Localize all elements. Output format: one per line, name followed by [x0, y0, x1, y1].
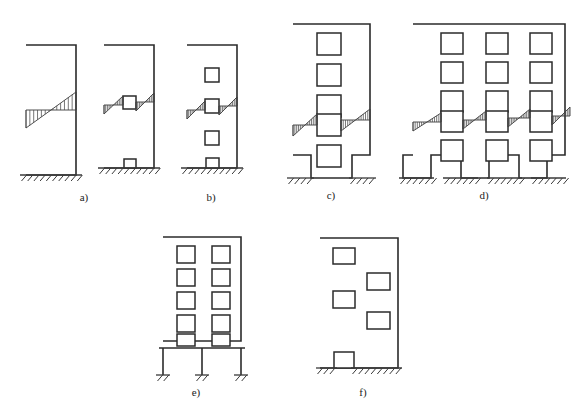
- opening-window-r3c3: [530, 91, 552, 112]
- shear-diagram-d-3: [552, 107, 570, 125]
- opening-window-r5: [212, 334, 230, 346]
- panel-f: [316, 238, 402, 374]
- ground-a-tick: [149, 168, 154, 174]
- ground-b-tick: [238, 168, 243, 174]
- shear-diagram-d-1: [463, 111, 486, 129]
- ground-a-tick: [131, 168, 136, 174]
- opening-window-r5c1: [441, 140, 463, 161]
- support-column-left: [156, 375, 170, 381]
- opening-window-r4c1: [441, 111, 463, 132]
- ground-f-1-tick: [353, 368, 358, 374]
- ground-f-1-tick: [384, 368, 389, 374]
- ground-c-1: [349, 178, 376, 184]
- opening-window-r1: [212, 246, 230, 263]
- ground-b: [181, 168, 243, 174]
- structural-diagram-figure: a)b)c)d)e)f): [0, 0, 588, 419]
- ground-d-3-tick: [564, 178, 569, 184]
- opening-mid-window: [123, 96, 136, 109]
- ground-f-0-tick: [318, 368, 323, 374]
- ground-f-1-tick: [359, 368, 364, 374]
- opening-base-door: [124, 159, 136, 168]
- ground-a-tick: [34, 175, 39, 181]
- wall-a-solid-wall: [20, 45, 82, 181]
- support-column-right-tick: [236, 375, 241, 381]
- opening-window-upper-right: [367, 273, 390, 290]
- ground-d-0-tick: [419, 178, 424, 184]
- ground-f-1-tick: [396, 368, 401, 374]
- opening-window-l4: [177, 315, 195, 332]
- panel-c: [287, 24, 376, 184]
- ground-a-tick: [124, 168, 129, 174]
- irregular-wall-outline: [320, 238, 398, 368]
- ground-b-tick: [226, 168, 231, 174]
- ground-c-1-tick: [357, 178, 362, 184]
- ground-d-1-tick: [457, 178, 462, 184]
- ground-d-0-tick: [401, 178, 406, 184]
- ground-c-1-tick: [351, 178, 356, 184]
- ground-d-1-tick: [463, 178, 468, 184]
- ground-d-2-tick: [489, 178, 494, 184]
- ground-d-0-tick: [425, 178, 430, 184]
- ground-d-2-tick: [507, 178, 512, 184]
- support-column-left-tick: [164, 375, 169, 381]
- opening-window-mid-left: [333, 291, 355, 308]
- ground-b-tick: [183, 168, 188, 174]
- pilotis-frame: [156, 348, 248, 381]
- opening-window-upper-left: [333, 248, 355, 264]
- opening-window-r3c2: [486, 91, 508, 112]
- ground-d-2-tick: [495, 178, 500, 184]
- wall-b-pierced-wall: [181, 45, 243, 174]
- ground-d-0-tick: [407, 178, 412, 184]
- ground-d-0-tick: [432, 178, 437, 184]
- opening-window-r4c2: [486, 111, 508, 132]
- ground-b-tick: [214, 168, 219, 174]
- ground-a-tick: [118, 168, 123, 174]
- support-column-right: [234, 375, 248, 381]
- ground-a-tick: [106, 168, 111, 174]
- ground-a-tick: [59, 175, 64, 181]
- shear-diagram-a-0: [26, 92, 76, 128]
- ground-c-0-tick: [307, 178, 312, 184]
- caption-label-d: d): [479, 189, 489, 202]
- opening-window-r2c2: [486, 62, 508, 83]
- ground-a-tick: [100, 168, 105, 174]
- opening-window-3: [205, 131, 219, 145]
- ground-f-0-tick: [324, 368, 329, 374]
- opening-window-2: [205, 99, 219, 113]
- opening-window-1: [317, 33, 341, 55]
- ground-a-tick: [28, 175, 33, 181]
- ground-d-3-tick: [545, 178, 550, 184]
- panel-a: [20, 45, 160, 181]
- wall-e-soft-storey-wall: [156, 237, 248, 381]
- ground-d-2-tick: [513, 178, 518, 184]
- ground-b-tick: [201, 168, 206, 174]
- ground-a-tick: [77, 175, 82, 181]
- opening-window-r5c2: [486, 140, 508, 161]
- opening-base-door: [334, 352, 354, 368]
- ground-f-1: [351, 368, 402, 374]
- ground-d-1-tick: [445, 178, 450, 184]
- wall-c-single-bay-wall: [287, 24, 376, 184]
- ground-c-0: [287, 178, 314, 184]
- ground-d-2: [487, 178, 525, 184]
- opening-window-r2: [212, 269, 230, 286]
- ground-f-1-tick: [371, 368, 376, 374]
- wall-d-multi-bay-wall: [399, 24, 570, 184]
- ground-a-tick: [143, 168, 148, 174]
- ground-a-tick: [112, 168, 117, 174]
- opening-window-l3: [177, 292, 195, 309]
- opening-window-r4: [212, 315, 230, 332]
- ground-a-tick: [46, 175, 51, 181]
- ground-a: [98, 168, 160, 174]
- ground-a-tick: [40, 175, 45, 181]
- shear-diagram-b-1: [219, 97, 237, 115]
- ground-c-0-tick: [289, 178, 294, 184]
- ground-d-0: [399, 178, 437, 184]
- opening-window-r3c1: [441, 91, 463, 112]
- shear-diagram-b-0: [187, 101, 205, 119]
- opening-base-door: [206, 158, 219, 168]
- wall-a-wall-with-opening: [98, 45, 160, 174]
- ground-d-1-tick: [469, 178, 474, 184]
- ground-b-tick: [195, 168, 200, 174]
- opening-window-r1c2: [486, 33, 508, 54]
